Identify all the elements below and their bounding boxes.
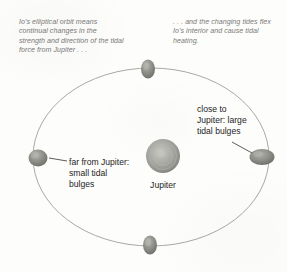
io-moon-left — [29, 150, 48, 167]
jupiter-body — [146, 139, 180, 173]
io-moon-bottom — [143, 236, 157, 255]
io-moon-right — [250, 149, 275, 165]
io-moon-top — [141, 60, 155, 79]
label-jupiter: Jupiter — [131, 180, 195, 190]
leader-line-close — [232, 142, 252, 153]
label-close-to-jupiter: close to Jupiter: large tidal bulges — [197, 104, 257, 138]
caption-left: Io's elliptical orbit means continual ch… — [19, 18, 124, 55]
label-far-from-jupiter: far from Jupiter: small tidal bulges — [69, 157, 131, 191]
caption-right: . . . and the changing tides flex Io's i… — [173, 18, 279, 46]
leader-line-far — [49, 158, 67, 161]
diagram-canvas: Io's elliptical orbit means continual ch… — [0, 0, 287, 272]
